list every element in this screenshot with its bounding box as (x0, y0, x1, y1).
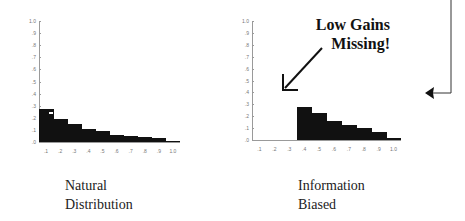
left-chart-x-tick-label: .2 (53, 148, 67, 154)
annotation-arrow-icon (283, 48, 322, 90)
right-chart-y-tick-label: .7 (235, 54, 249, 60)
right-chart-y-tick-mark (252, 116, 254, 117)
right-chart-bar (386, 138, 401, 140)
left-chart-x-axis (39, 142, 180, 143)
left-caption-line-2: Distribution (65, 195, 133, 214)
left-chart-x-tick-label: .9 (152, 148, 166, 154)
right-chart-y-tick-label: .3 (235, 101, 249, 107)
left-chart-x-tick-label: .7 (124, 148, 138, 154)
left-chart-y-tick-mark (39, 21, 41, 22)
left-chart-y-tick-label: .4 (22, 91, 36, 97)
return-arrow-icon (425, 0, 451, 99)
left-chart-y-tick-label: .2 (22, 115, 36, 121)
right-chart-y-tick-mark (252, 33, 254, 34)
right-chart-x-axis (252, 140, 401, 141)
right-chart-y-tick-label: .8 (235, 42, 249, 48)
left-chart-bar (53, 119, 68, 142)
right-chart-y-tick-mark (252, 128, 254, 129)
left-chart-y-tick-label: 1.0 (22, 18, 36, 24)
left-chart-y-tick-label: .8 (22, 42, 36, 48)
right-caption: Information Biased (298, 176, 365, 214)
right-chart-y-tick-label: .4 (235, 89, 249, 95)
right-chart-y-tick-label: .5 (235, 78, 249, 84)
right-chart-y-tick-label: .6 (235, 66, 249, 72)
left-chart-y-tick-label: .9 (22, 30, 36, 36)
left-chart-y-tick-label: .0 (22, 139, 36, 145)
right-caption-line-2: Biased (298, 195, 365, 214)
left-caption: Natural Distribution (65, 176, 133, 214)
right-chart-y-tick-mark (252, 92, 254, 93)
left-chart-y-tick-label: .3 (22, 103, 36, 109)
right-chart-y-tick-mark (252, 140, 254, 141)
right-chart-y-tick-mark (252, 104, 254, 105)
left-chart-y-tick-mark (39, 106, 41, 107)
left-chart-bar (110, 135, 125, 142)
right-chart-x-tick-label: .5 (312, 146, 326, 152)
right-chart-bar (327, 121, 342, 140)
left-chart-x-tick-label: .4 (81, 148, 95, 154)
right-chart-y-tick-label: 1.0 (235, 18, 249, 24)
right-chart-y-tick-mark (252, 45, 254, 46)
right-chart-x-tick-label: .9 (372, 146, 386, 152)
left-chart-y-tick-mark (39, 57, 41, 58)
right-chart-x-tick-label: .6 (327, 146, 341, 152)
right-chart-y-tick-mark (252, 81, 254, 82)
left-chart-x-tick-label: .8 (138, 148, 152, 154)
left-chart-y-tick-mark (39, 33, 41, 34)
left-chart-bar (166, 141, 181, 142)
left-chart-y-tick-mark (39, 94, 41, 95)
left-caption-line-1: Natural (65, 176, 133, 195)
left-chart-bar (81, 129, 96, 142)
right-chart-y-tick-label: .9 (235, 30, 249, 36)
left-chart-bar (67, 124, 82, 142)
right-chart-y-tick-label: .2 (235, 113, 249, 119)
left-chart-bar (138, 137, 153, 142)
left-chart-y-tick-mark (39, 142, 41, 143)
right-chart-y-tick-label: .0 (235, 137, 249, 143)
left-chart-x-tick-label: 1.0 (166, 148, 180, 154)
right-chart-y-tick-mark (252, 21, 254, 22)
right-chart-y-tick-mark (252, 69, 254, 70)
right-chart-y-tick-mark (252, 57, 254, 58)
left-chart-bar (95, 131, 110, 142)
right-chart-bar (356, 128, 371, 140)
left-chart-y-tick-label: .5 (22, 79, 36, 85)
right-chart-bar (371, 132, 386, 140)
left-chart-y-tick-mark (39, 45, 41, 46)
left-chart-bar (152, 138, 167, 142)
left-chart-x-tick-label: .6 (110, 148, 124, 154)
left-chart-x-tick-label: .3 (67, 148, 81, 154)
right-chart-x-tick-label: .4 (297, 146, 311, 152)
right-chart-x-tick-label: .7 (342, 146, 356, 152)
right-chart-x-tick-label: .2 (267, 146, 281, 152)
right-chart-x-tick-label: 1.0 (387, 146, 401, 152)
right-caption-line-1: Information (298, 176, 365, 195)
left-chart-bar (124, 136, 139, 142)
left-chart-x-tick-label: .1 (39, 148, 53, 154)
right-chart-x-tick-label: .3 (282, 146, 296, 152)
right-chart-x-tick-label: .1 (252, 146, 266, 152)
left-chart-y-tick-label: .1 (22, 127, 36, 133)
left-chart-y-tick-label: .7 (22, 54, 36, 60)
left-chart-y-tick-mark (39, 69, 41, 70)
right-chart-bar (341, 125, 356, 140)
left-chart-y-tick-mark (39, 82, 41, 83)
right-chart-bar (312, 113, 327, 140)
right-chart-x-tick-label: .8 (357, 146, 371, 152)
left-chart-bar-notch (49, 112, 53, 114)
left-chart-x-tick-label: .5 (95, 148, 109, 154)
right-chart-bar (297, 107, 312, 140)
right-chart-y-tick-label: .1 (235, 125, 249, 131)
left-chart-y-tick-label: .6 (22, 66, 36, 72)
